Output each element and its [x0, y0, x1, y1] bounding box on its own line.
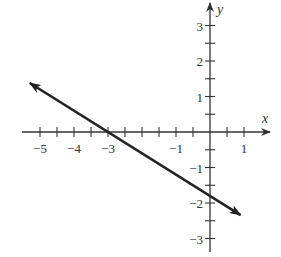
y-axis-label: y	[215, 2, 224, 17]
y-tick-label: 1	[197, 90, 204, 105]
axes	[22, 3, 270, 252]
data-series	[30, 83, 241, 215]
y-tick-label: −2	[189, 196, 203, 211]
y-tick-label: 3	[197, 19, 204, 34]
x-tick-label: −4	[67, 141, 81, 156]
x-tick-label: −3	[101, 141, 115, 156]
x-tick-label: 1	[241, 141, 248, 156]
y-tick-label: −1	[189, 161, 203, 176]
line-graph: −5−4−3−11321−1−2−3xy	[0, 0, 281, 257]
x-tick-label: −1	[169, 141, 183, 156]
y-tick-label: 2	[197, 54, 204, 69]
x-axis-label: x	[261, 111, 269, 126]
x-tick-label: −5	[33, 141, 47, 156]
y-tick-label: −3	[189, 232, 203, 247]
